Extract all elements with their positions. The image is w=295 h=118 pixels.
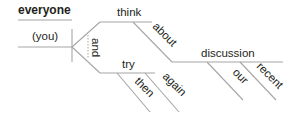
word-think: think [117, 6, 142, 18]
sentence-diagram: everyone (you) and think about discussio… [0, 0, 295, 118]
word-again: again [161, 70, 189, 98]
word-and: and [90, 38, 102, 57]
word-discussion: discussion [201, 47, 255, 59]
word-try: try [122, 58, 135, 70]
word-everyone: everyone [18, 3, 71, 17]
word-recent: recent [255, 60, 287, 92]
word-you: (you) [32, 30, 58, 42]
word-our: our [231, 66, 251, 86]
